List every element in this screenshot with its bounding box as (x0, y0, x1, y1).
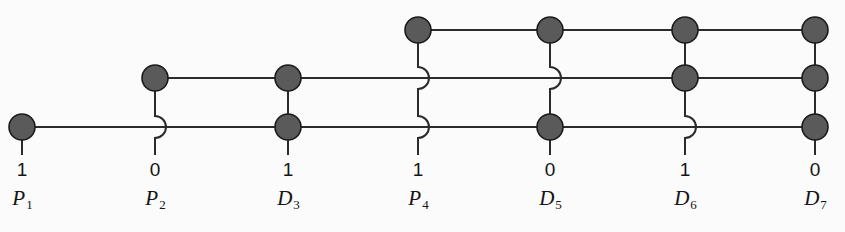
column-label-letter-d6: D (674, 186, 689, 210)
column-label-subscript-d7: 7 (820, 197, 827, 212)
node-d3-bottom (275, 114, 301, 140)
column-label-letter-d7: D (804, 186, 819, 210)
node-p1-bottom (9, 114, 35, 140)
column-label-letter-p4: P (408, 186, 421, 210)
column-label-d3: D3 (258, 188, 318, 209)
node-p2-middle (142, 65, 168, 91)
column-label-subscript-d3: 3 (293, 197, 300, 212)
column-wire-d6 (685, 30, 696, 155)
column-wire-p4 (418, 30, 429, 155)
column-label-d5: D5 (520, 188, 580, 209)
column-label-letter-p1: P (12, 186, 25, 210)
node-d5-top (537, 17, 563, 43)
column-label-p4: P4 (388, 188, 448, 209)
column-label-p2: P2 (125, 188, 185, 209)
node-d7-top (802, 17, 828, 43)
bit-value-d5: 0 (530, 160, 570, 179)
column-label-d7: D7 (785, 188, 845, 209)
hamming-wiring-diagram: 1P10P21D31P40D51D60D7 (0, 0, 845, 232)
node-d7-bottom (802, 114, 828, 140)
column-label-letter-p2: P (145, 186, 158, 210)
column-label-subscript-p4: 4 (422, 197, 429, 212)
node-d7-middle (802, 65, 828, 91)
node-d3-middle (275, 65, 301, 91)
bit-value-d3: 1 (268, 160, 308, 179)
bit-value-p4: 1 (398, 160, 438, 179)
bit-value-p2: 0 (135, 160, 175, 179)
bit-value-d6: 1 (665, 160, 705, 179)
column-label-p1: P1 (0, 188, 52, 209)
node-p4-top (405, 17, 431, 43)
bit-value-p1: 1 (2, 160, 42, 179)
column-label-letter-d5: D (539, 186, 554, 210)
node-d6-middle (672, 65, 698, 91)
column-label-subscript-d6: 6 (690, 197, 697, 212)
bit-value-d7: 0 (795, 160, 835, 179)
node-d6-top (672, 17, 698, 43)
column-label-subscript-p1: 1 (26, 197, 33, 212)
column-label-subscript-d5: 5 (555, 197, 562, 212)
column-label-letter-d3: D (277, 186, 292, 210)
column-label-subscript-p2: 2 (159, 197, 166, 212)
node-d5-bottom (537, 114, 563, 140)
column-label-d6: D6 (655, 188, 715, 209)
